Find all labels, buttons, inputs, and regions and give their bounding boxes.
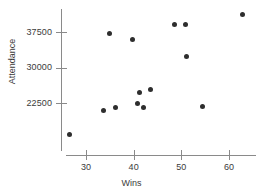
data-point <box>67 132 72 137</box>
x-tick-mark <box>229 150 230 160</box>
y-axis-title: Attendance <box>8 25 17 99</box>
data-point <box>200 104 205 109</box>
data-point <box>107 31 112 36</box>
y-axis-line <box>61 9 62 151</box>
data-point <box>113 105 118 110</box>
y-tick-label: 22500 <box>16 99 52 108</box>
data-point <box>240 12 245 17</box>
y-tick-label: 30000 <box>16 63 52 72</box>
data-point <box>137 90 142 95</box>
x-axis-line <box>66 155 256 156</box>
data-point <box>101 108 106 113</box>
data-point <box>184 54 189 59</box>
data-point <box>172 22 177 27</box>
x-tick-label: 40 <box>119 163 149 172</box>
y-tick-mark <box>56 32 67 33</box>
x-tick-label: 60 <box>214 163 244 172</box>
data-point <box>130 37 135 42</box>
data-point <box>148 87 153 92</box>
data-point <box>183 22 188 27</box>
y-tick-label: 37500 <box>16 28 52 37</box>
scatter-chart: 225003000037500 30405060 Attendance Wins <box>0 0 263 193</box>
x-axis-title: Wins <box>0 179 263 188</box>
x-tick-mark <box>86 150 87 160</box>
x-tick-mark <box>181 150 182 160</box>
y-tick-mark <box>56 68 67 69</box>
data-point <box>141 105 146 110</box>
x-tick-label: 30 <box>71 163 101 172</box>
data-point <box>135 101 140 106</box>
x-tick-mark <box>134 150 135 160</box>
y-tick-mark <box>56 103 67 104</box>
x-tick-label: 50 <box>166 163 196 172</box>
